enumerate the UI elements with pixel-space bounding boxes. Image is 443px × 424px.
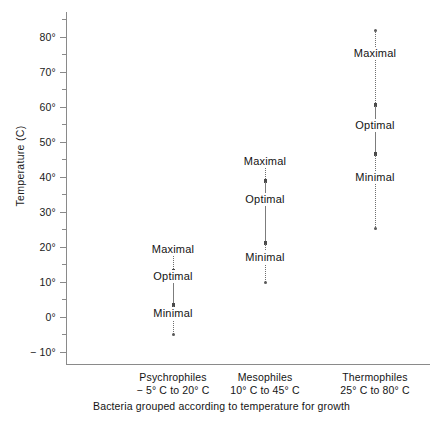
y-tick-80 — [60, 37, 67, 38]
y-tick-label-20: 20° — [20, 241, 56, 253]
thermophiles-lower-dotted-segment — [375, 155, 376, 229]
y-tick-minor-25 — [62, 229, 67, 230]
thermophiles-range: 25° C to 80° C — [300, 384, 443, 397]
y-tick-0 — [60, 317, 67, 318]
y-axis-line — [66, 12, 67, 364]
psychrophiles-minimal-label: Minimal — [113, 307, 233, 320]
x-axis-line — [66, 364, 430, 365]
y-tick-label-30: 30° — [20, 206, 56, 218]
y-tick-label-50: 50° — [20, 136, 56, 148]
thermophiles-maximal-label: Maximal — [315, 47, 435, 60]
y-tick-minor-75 — [62, 54, 67, 55]
y-tick-minor-5 — [62, 299, 67, 300]
y-tick-20 — [60, 247, 67, 248]
mesophiles-minimal-label: Minimal — [205, 251, 325, 264]
mesophiles-maximal-label: Maximal — [205, 155, 325, 168]
y-tick-30 — [60, 212, 67, 213]
thermophiles-upper-dotted-segment — [375, 31, 376, 105]
y-tick-minor-45 — [62, 159, 67, 160]
y-tick-10 — [60, 282, 67, 283]
thermophiles-minimal-label: Minimal — [315, 171, 435, 184]
y-tick-60 — [60, 107, 67, 108]
y-tick-label-70: 70° — [20, 66, 56, 78]
y-tick-label-60: 60° — [20, 101, 56, 113]
y-tick-label-80: 80° — [20, 31, 56, 43]
thermophiles-name: Thermophiles — [300, 371, 443, 384]
psychrophiles-optimal-label: Optimal — [113, 270, 233, 283]
y-tick-minor-neg5 — [62, 334, 67, 335]
mesophiles-min-endcap — [264, 281, 267, 284]
y-tick-minor-85 — [62, 19, 67, 20]
y-tick-label-40: 40° — [20, 171, 56, 183]
mesophiles-optimal-solid-segment — [265, 182, 266, 243]
mesophiles-optimal-label: Optimal — [205, 193, 325, 206]
y-tick-minor-35 — [62, 194, 67, 195]
y-tick-neg10 — [60, 352, 67, 353]
y-tick-label-0: 0° — [20, 311, 56, 323]
thermophiles-min-endcap — [374, 227, 377, 230]
y-tick-label-10: 10° — [20, 276, 56, 288]
y-tick-50 — [60, 142, 67, 143]
thermophiles-optimal-label: Optimal — [315, 119, 435, 132]
figure-caption: Bacteria grouped according to temperatur… — [0, 400, 443, 412]
category-label-thermophiles: Thermophiles 25° C to 80° C — [300, 371, 443, 396]
y-tick-minor-65 — [62, 89, 67, 90]
y-tick-minor-15 — [62, 264, 67, 265]
psychrophiles-min-endcap — [172, 333, 175, 336]
y-tick-40 — [60, 177, 67, 178]
y-tick-70 — [60, 72, 67, 73]
y-tick-minor-55 — [62, 124, 67, 125]
temperature-growth-chart: Temperature (C) 80° 70° 60° 50° 40° 30° … — [0, 0, 443, 424]
y-tick-label-neg10: − 10° — [20, 346, 56, 358]
